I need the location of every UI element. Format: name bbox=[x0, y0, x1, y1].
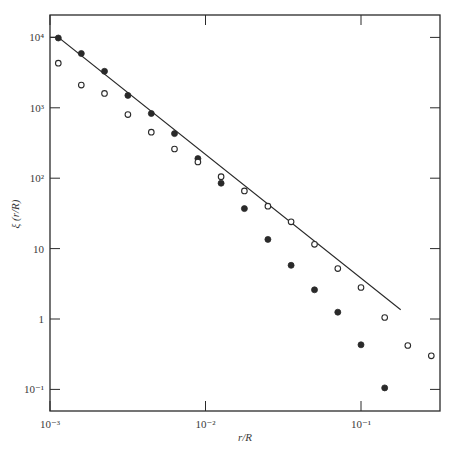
filled-circle-point bbox=[55, 35, 61, 41]
x-axis-label: r/R bbox=[238, 431, 252, 443]
filled-circle-point bbox=[102, 68, 108, 74]
filled-circle-point bbox=[218, 180, 224, 186]
open-circle-point bbox=[218, 174, 224, 180]
open-circle-point bbox=[335, 266, 341, 272]
fit-line bbox=[50, 37, 401, 309]
open-circle-point bbox=[405, 343, 411, 349]
filled-circle-point bbox=[78, 51, 84, 57]
open-circle-point bbox=[56, 60, 62, 66]
filled-circle-point bbox=[288, 262, 294, 268]
open-circle-point bbox=[382, 315, 388, 321]
open-circle-point bbox=[429, 353, 435, 359]
filled-circle-point bbox=[125, 92, 131, 98]
filled-circle-point bbox=[382, 385, 388, 391]
x-tick-label: 10⁻³ bbox=[40, 418, 61, 430]
filled-circle-point bbox=[172, 131, 178, 137]
y-axis-label: ξ (r/R) bbox=[9, 199, 22, 228]
filled-circle-point bbox=[265, 236, 271, 242]
power-law-fit-line bbox=[50, 37, 401, 309]
plot-border bbox=[50, 15, 440, 411]
open-circle-point bbox=[172, 146, 178, 152]
open-circle-point bbox=[125, 112, 131, 118]
open-circle-point bbox=[358, 285, 364, 291]
y-tick-label: 1 bbox=[39, 313, 45, 325]
open-circle-point bbox=[195, 159, 201, 165]
chart-canvas: 10⁻³10⁻²10⁻¹10⁻¹11010²10³10⁴ r/R ξ (r/R) bbox=[0, 0, 458, 453]
filled-circle-point bbox=[241, 206, 247, 212]
y-tick-label: 10⁻¹ bbox=[24, 383, 44, 395]
open-circle-point bbox=[312, 242, 318, 248]
y-tick-label: 10⁴ bbox=[29, 31, 44, 43]
filled-circle-point bbox=[312, 287, 318, 293]
y-tick-label: 10² bbox=[30, 172, 45, 184]
x-tick-label: 10⁻² bbox=[195, 418, 216, 430]
axis-ticks: 10⁻³10⁻²10⁻¹10⁻¹11010²10³10⁴ bbox=[24, 15, 440, 430]
plot-frame bbox=[50, 15, 440, 411]
open-circle-point bbox=[149, 129, 155, 135]
data-points bbox=[55, 35, 434, 391]
open-circle-point bbox=[288, 219, 294, 225]
open-circle-point bbox=[79, 82, 85, 88]
filled-circle-point bbox=[358, 342, 364, 348]
y-tick-label: 10³ bbox=[30, 102, 45, 114]
open-circle-point bbox=[242, 188, 248, 194]
filled-circle-point bbox=[335, 309, 341, 315]
open-circle-point bbox=[265, 203, 271, 209]
filled-circle-point bbox=[148, 111, 154, 117]
y-tick-label: 10 bbox=[33, 243, 45, 255]
open-circle-point bbox=[102, 91, 108, 97]
x-tick-label: 10⁻¹ bbox=[351, 418, 371, 430]
